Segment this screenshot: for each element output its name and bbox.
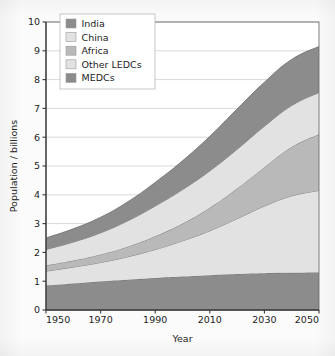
- legend-swatch: [66, 19, 76, 28]
- x-tick-label: 1990: [143, 314, 167, 325]
- y-tick-label: 2: [34, 247, 40, 258]
- y-tick-label: 9: [34, 45, 40, 56]
- x-tick-label: 2050: [295, 314, 319, 325]
- x-tick-label: 2010: [198, 314, 222, 325]
- y-tick-label: 3: [34, 218, 40, 229]
- legend-swatch: [66, 73, 76, 82]
- y-tick-label: 1: [34, 276, 40, 287]
- y-tick-label: 8: [34, 74, 40, 85]
- legend-swatch: [66, 33, 76, 42]
- chart-plot-container: 012345678910 195019701990201020302050 Po…: [0, 0, 335, 356]
- y-tick-label: 7: [34, 103, 40, 114]
- legend-label: Other LEDCs: [82, 59, 142, 70]
- y-tick-label: 10: [28, 16, 40, 27]
- x-tick-label: 2030: [252, 314, 276, 325]
- y-tick-label: 4: [34, 189, 40, 200]
- y-tick-label: 5: [34, 160, 40, 171]
- y-axis-group: 012345678910: [28, 16, 46, 315]
- legend-label: MEDCs: [82, 72, 115, 83]
- y-tick-label: 6: [34, 132, 40, 143]
- stacked-area-chart: 012345678910 195019701990201020302050 Po…: [0, 0, 335, 356]
- x-axis-group: 195019701990201020302050: [46, 310, 319, 325]
- y-tick-label: 0: [34, 304, 40, 315]
- legend-swatch: [66, 60, 76, 69]
- x-tick-label: 1970: [89, 314, 113, 325]
- legend-label: China: [82, 32, 109, 43]
- legend-label: India: [82, 18, 105, 29]
- x-tick-label: 1950: [46, 314, 70, 325]
- chart-figure: 012345678910 195019701990201020302050 Po…: [0, 0, 335, 356]
- legend-swatch: [66, 46, 76, 55]
- y-axis-title: Population / billions: [8, 120, 19, 213]
- chart-legend: IndiaChinaAfricaOther LEDCsMEDCs: [60, 14, 155, 89]
- legend-label: Africa: [82, 45, 109, 56]
- x-axis-title: Year: [171, 333, 192, 344]
